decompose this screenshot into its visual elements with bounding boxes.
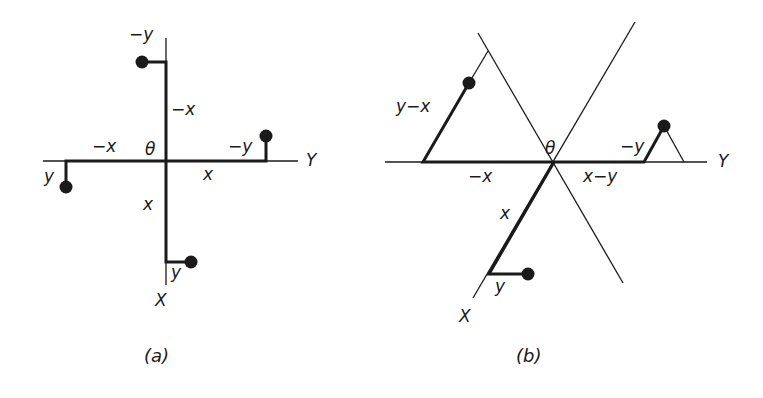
figure-canvas: −y −x −x y θ x −y Y x y X (a) bbox=[0, 0, 763, 398]
b-axis-label-x: X bbox=[458, 306, 471, 326]
a-label-left-y: y bbox=[43, 166, 55, 186]
a-axis-label-x: X bbox=[154, 290, 167, 310]
b-label-down-y: y bbox=[494, 276, 506, 296]
figure-svg: −y −x −x y θ x −y Y x y X (a) bbox=[0, 0, 763, 398]
b-axis-label-y: Y bbox=[718, 151, 730, 171]
a-label-left-x: −x bbox=[92, 136, 117, 156]
a-point-left bbox=[60, 181, 73, 194]
a-point-up bbox=[136, 56, 149, 69]
b-point-right bbox=[658, 120, 671, 133]
b-diagonal-axis-x bbox=[473, 22, 635, 298]
b-path-down bbox=[489, 162, 554, 274]
b-label-upper-left: y−x bbox=[395, 96, 431, 116]
a-path-down bbox=[166, 161, 191, 262]
a-axis-label-y: Y bbox=[306, 150, 318, 170]
b-point-upper-left bbox=[463, 77, 476, 90]
a-label-up-y: −y bbox=[129, 24, 154, 44]
a-label-right-x: x bbox=[202, 164, 214, 184]
a-origin-theta: θ bbox=[145, 139, 156, 159]
a-caption: (a) bbox=[144, 345, 169, 366]
a-path-left bbox=[66, 161, 166, 187]
b-point-down bbox=[522, 268, 535, 281]
a-label-down-y: y bbox=[170, 262, 182, 282]
a-label-right-y: −y bbox=[228, 136, 253, 156]
b-caption: (b) bbox=[516, 345, 541, 366]
panel-a: −y −x −x y θ x −y Y x y X (a) bbox=[43, 24, 318, 366]
panel-b: y−x θ −x x−y −y Y x y X (b) bbox=[385, 22, 730, 366]
a-label-down-x: x bbox=[142, 194, 154, 214]
b-label-right-x: x−y bbox=[582, 166, 618, 186]
a-point-right bbox=[260, 130, 273, 143]
b-path-left bbox=[423, 83, 554, 162]
a-point-down bbox=[185, 256, 198, 269]
b-anti-diagonal-axis bbox=[478, 33, 623, 283]
a-label-up-x: −x bbox=[171, 99, 196, 119]
b-label-left-x: −x bbox=[468, 166, 493, 186]
b-label-down-x: x bbox=[499, 203, 511, 223]
b-label-right-y: −y bbox=[620, 136, 645, 156]
b-origin-theta: θ bbox=[545, 138, 556, 158]
